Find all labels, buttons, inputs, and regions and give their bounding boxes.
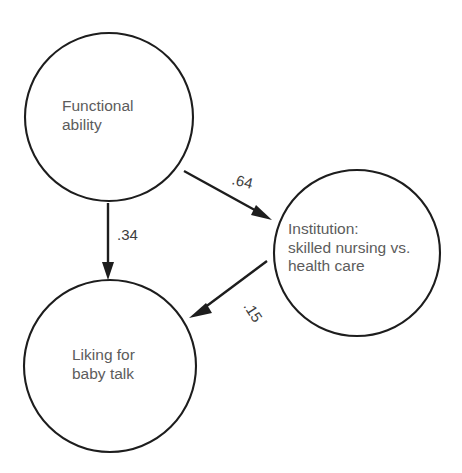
path-diagram-canvas: .64 .34 .15 Functional ability xyxy=(0,0,462,473)
nodes-group: Functional ability Liking for baby talk … xyxy=(24,33,440,452)
node-institution[interactable]: Institution: skilled nursing vs. health … xyxy=(274,170,440,336)
node-label-line: ability xyxy=(62,116,102,133)
edge-functional-ability-to-liking: .34 xyxy=(102,203,138,280)
node-liking-for-baby-talk[interactable]: Liking for baby talk xyxy=(24,280,196,452)
node-label-liking-for-baby-talk: Liking for baby talk xyxy=(72,346,139,382)
node-label-line: baby talk xyxy=(72,365,134,382)
node-label-line: skilled nursing vs. xyxy=(288,239,410,256)
arrowhead-icon xyxy=(102,262,114,280)
node-functional-ability[interactable]: Functional ability xyxy=(25,33,193,201)
node-label-line: Functional xyxy=(62,97,134,114)
edge-coefficient-15: .15 xyxy=(240,298,266,325)
edge-coefficient-34: .34 xyxy=(117,226,138,243)
edge-institution-to-liking: .15 xyxy=(189,261,267,325)
path-diagram: .64 .34 .15 Functional ability xyxy=(0,0,462,473)
node-circle[interactable] xyxy=(25,33,193,201)
node-label-line: health care xyxy=(288,257,365,274)
node-label-line: Liking for xyxy=(72,346,135,363)
edge-coefficient-64: .64 xyxy=(230,170,254,192)
arrowhead-icon xyxy=(251,205,272,220)
node-label-line: Institution: xyxy=(288,220,359,237)
edge-functional-ability-to-institution: .64 xyxy=(184,170,272,220)
